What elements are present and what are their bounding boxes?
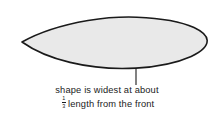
airfoil-shape-path bbox=[22, 17, 207, 68]
figure-root: shape is widest at about 13length from t… bbox=[0, 0, 212, 119]
caption-line-2: 13length from the front bbox=[0, 97, 212, 111]
caption-line-2-text: length from the front bbox=[68, 99, 154, 109]
fraction-denominator: 3 bbox=[62, 104, 66, 110]
fraction-one-third: 13 bbox=[62, 96, 66, 109]
fraction-numerator: 1 bbox=[62, 96, 66, 102]
caption-line-1: shape is widest at about bbox=[0, 84, 212, 97]
caption: shape is widest at about 13length from t… bbox=[0, 84, 212, 110]
